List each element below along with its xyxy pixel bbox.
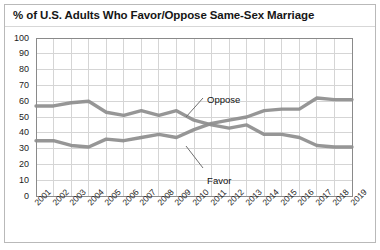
y-tick-label: 60 — [3, 97, 29, 106]
series-label-favor: Favor — [207, 175, 231, 186]
series-label-oppose: Oppose — [207, 94, 240, 105]
y-tick-label: 50 — [3, 113, 29, 122]
y-tick-label: 100 — [3, 34, 29, 43]
y-tick-label: 40 — [3, 128, 29, 137]
y-tick-label: 0 — [3, 192, 29, 201]
y-tick-label: 70 — [3, 81, 29, 90]
y-tick-label: 80 — [3, 65, 29, 74]
y-tick-label: 10 — [3, 176, 29, 185]
chart-figure: % of U.S. Adults Who Favor/Oppose Same-S… — [0, 0, 380, 250]
plot-area — [0, 0, 380, 250]
y-tick-label: 90 — [3, 49, 29, 58]
y-tick-label: 20 — [3, 160, 29, 169]
y-tick-label: 30 — [3, 144, 29, 153]
